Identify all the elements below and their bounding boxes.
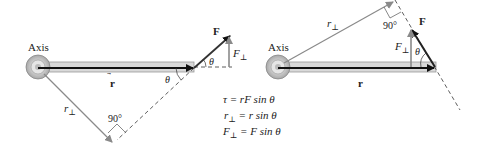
right-angle-label-right: 90° (383, 20, 397, 31)
equation-torque: τ = rF sin θ (223, 93, 275, 108)
force-label-right: F (419, 15, 426, 27)
equation-f-perp: F⊥ = F sin θ (223, 125, 281, 140)
right-angle-label-left: 90° (108, 113, 122, 124)
f-perp-label-right: F⊥ (394, 40, 409, 55)
axis-label-right: Axis (268, 41, 289, 53)
left-diagram: Axis r ⃗ F F⊥ θ θ r⊥ 90° (26, 25, 247, 142)
right-diagram: Axis r F F⊥ θ r⊥ 90° (266, 0, 460, 110)
line-of-action-left (117, 68, 194, 140)
theta-label-rod-left: θ (165, 74, 170, 85)
theta-label-force-left: θ (209, 56, 214, 67)
r-label-left: r (110, 77, 115, 89)
torque-diagram: Axis r ⃗ F F⊥ θ θ r⊥ 90° Axis (0, 0, 483, 155)
r-perp-vector-left (44, 74, 112, 142)
r-perp-label-right: r⊥ (327, 17, 339, 32)
r-arrow-accent-left: ⃗ (107, 72, 111, 75)
r-label-right: r (358, 77, 363, 89)
right-angle-mark-right (384, 7, 401, 18)
r-perp-vector-right (284, 2, 393, 63)
f-perp-label-left: F⊥ (232, 47, 247, 62)
theta-label-right: θ (415, 46, 420, 57)
right-angle-mark-left (108, 124, 126, 133)
axis-label-left: Axis (28, 41, 49, 53)
equation-r-perp: r⊥ = r sin θ (224, 109, 277, 124)
force-label-left: F (213, 25, 220, 37)
